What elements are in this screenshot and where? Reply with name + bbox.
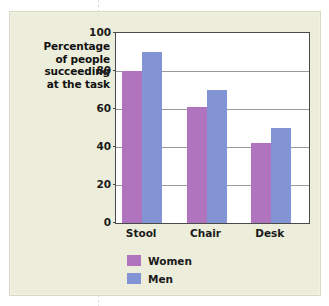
y-axis-tick-label: 80 [71, 65, 111, 75]
chart-panel: Percentage of people succeeding at the t… [9, 11, 321, 296]
bar-desk-women [251, 143, 271, 223]
bar-stool-men [142, 52, 162, 223]
chart-legend: WomenMen [127, 253, 192, 289]
bar-chair-women [187, 107, 207, 223]
legend-swatch-icon [127, 273, 141, 284]
bar-group [251, 33, 291, 223]
bar-chair-men [207, 90, 227, 223]
bar-group [122, 33, 162, 223]
y-axis-tick-label: 0 [71, 217, 111, 227]
y-axis: 020406080100 [65, 32, 111, 222]
bar-desk-men [271, 128, 291, 223]
chart-figure: Percentage of people succeeding at the t… [0, 0, 329, 306]
y-axis-tick-label: 100 [71, 27, 111, 37]
legend-item-women: Women [127, 253, 192, 268]
x-axis-label-chair: Chair [171, 227, 241, 239]
y-axis-tick-label: 40 [71, 141, 111, 151]
x-axis-label-stool: Stool [106, 227, 176, 239]
bar-group [187, 33, 227, 223]
bar-stool-women [122, 71, 142, 223]
y-axis-tick-label: 60 [71, 103, 111, 113]
legend-item-men: Men [127, 271, 192, 286]
x-axis-label-desk: Desk [235, 227, 305, 239]
legend-label: Women [148, 255, 192, 267]
legend-swatch-icon [127, 255, 141, 266]
plot-area [115, 32, 310, 224]
y-axis-tick-label: 20 [71, 179, 111, 189]
legend-label: Men [148, 273, 173, 285]
